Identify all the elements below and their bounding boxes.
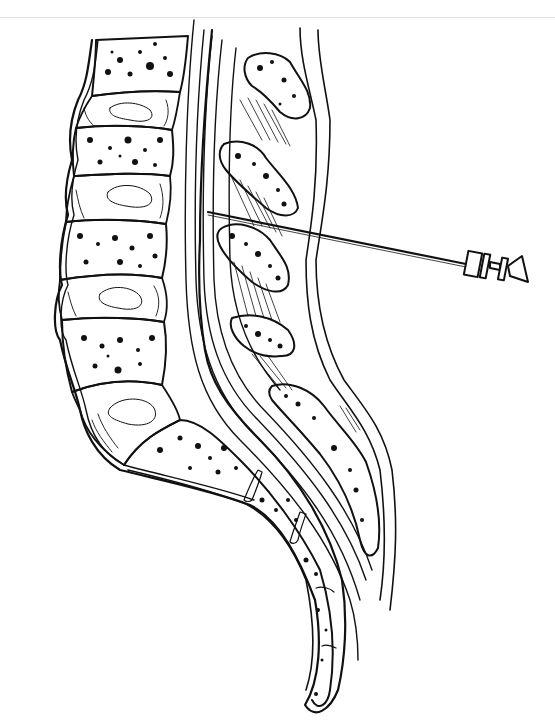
- bone-trabeculae: [77, 42, 364, 696]
- spinal-needle: [208, 212, 528, 282]
- spinal-canal: [185, 20, 372, 660]
- needle-shaft: [208, 212, 466, 264]
- needle-hub: [464, 251, 528, 282]
- vertebra-L2: [73, 126, 174, 176]
- vertebra-L3: [60, 220, 167, 280]
- sacral-fusion-line: [290, 512, 306, 543]
- lumbar-puncture-illustration: [0, 0, 555, 727]
- vertebra-L1: [92, 36, 188, 96]
- coccyx-joint: [322, 645, 336, 648]
- interspinous-ligament-hatching: [232, 98, 360, 432]
- spinous-processes: [217, 28, 395, 610]
- vertebral-column-outline: [55, 30, 345, 712]
- sacrum-coccyx: [124, 420, 336, 706]
